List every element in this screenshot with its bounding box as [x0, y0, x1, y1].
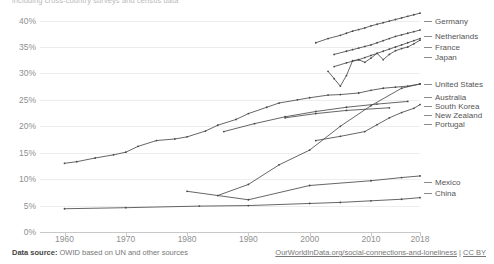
plot-area: 0%5%10%15%20%25%30%35%40% 19601970198019… [40, 10, 420, 232]
legend-item-china[interactable]: China [424, 189, 456, 199]
legend-dash-icon [424, 36, 432, 37]
y-axis-label-30%: 30% [19, 68, 36, 78]
series-mexico [186, 175, 421, 201]
owid-url-link[interactable]: OurWorldInData.org/social-connections-an… [275, 248, 457, 257]
gridline-0% [40, 232, 420, 233]
data-source-label: Data source: [12, 248, 57, 257]
legend-label: United States [435, 80, 483, 89]
series-united-states [64, 83, 421, 164]
legend-label: Japan [435, 53, 457, 62]
x-axis-label-1980: 1980 [178, 234, 197, 244]
legend-dash-icon [424, 182, 432, 183]
series-lines-layer [40, 10, 420, 232]
legend-dash-icon [424, 21, 432, 22]
legend-dash-icon [424, 193, 432, 194]
legend-dash-icon [424, 84, 432, 85]
y-axis-label-35%: 35% [19, 42, 36, 52]
chart-root: including cross-country surveys and cens… [0, 0, 494, 264]
y-axis-label-0%: 0% [24, 227, 36, 237]
legend-label: Germany [435, 17, 468, 26]
legend-item-france[interactable]: France [424, 43, 460, 53]
legend-label: South Korea [435, 102, 479, 111]
legend-dash-icon [424, 57, 432, 58]
series-japan [327, 39, 421, 87]
y-axis-label-25%: 25% [19, 95, 36, 105]
x-axis-label-1970: 1970 [116, 234, 135, 244]
y-axis-label-5%: 5% [24, 201, 36, 211]
legend-label: New Zealand [435, 111, 482, 120]
legend-label: Portugal [435, 120, 465, 129]
footer: Data source: OWID based on UN and other … [0, 248, 494, 260]
legend-dash-icon [424, 47, 432, 48]
x-axis-label-1990: 1990 [239, 234, 258, 244]
legend-dash-icon [424, 115, 432, 116]
legend-label: Australia [435, 93, 466, 102]
x-axis-label-2010: 2010 [361, 234, 380, 244]
legend-label: Mexico [435, 178, 460, 187]
x-axis-label-2000: 2000 [300, 234, 319, 244]
legend-item-netherlands[interactable]: Netherlands [424, 32, 478, 42]
legend-item-japan[interactable]: Japan [424, 53, 457, 63]
license-link[interactable]: CC BY [463, 248, 486, 257]
legend-label: France [435, 43, 460, 52]
credit: OurWorldInData.org/social-connections-an… [275, 248, 486, 257]
legend-item-portugal[interactable]: Portugal [424, 120, 465, 130]
legend-dash-icon [424, 106, 432, 107]
subtitle-fragment: including cross-country surveys and cens… [12, 0, 312, 5]
legend-item-mexico[interactable]: Mexico [424, 178, 460, 188]
legend-item-united-states[interactable]: United States [424, 80, 483, 90]
legend-dash-icon [424, 97, 432, 98]
data-source: Data source: OWID based on UN and other … [12, 248, 188, 257]
legend-dash-icon [424, 124, 432, 125]
data-source-text: OWID based on UN and other sources [57, 248, 187, 257]
y-axis-label-15%: 15% [19, 148, 36, 158]
series-australia [223, 101, 409, 133]
y-axis-label-20%: 20% [19, 121, 36, 131]
x-axis-label-2018: 2018 [411, 234, 430, 244]
legend-label: China [435, 189, 456, 198]
legend-item-germany[interactable]: Germany [424, 17, 468, 27]
series-germany [315, 12, 421, 43]
x-axis-label-1960: 1960 [55, 234, 74, 244]
y-axis-label-10%: 10% [19, 174, 36, 184]
legend-label: Netherlands [435, 32, 478, 41]
y-axis-label-40%: 40% [19, 16, 36, 26]
